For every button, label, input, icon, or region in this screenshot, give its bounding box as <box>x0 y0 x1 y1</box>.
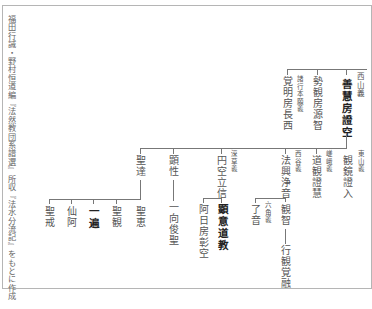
node-kanchi: 観智 <box>279 204 290 226</box>
node-enku-risshin: 円空立信 <box>215 155 226 199</box>
connector-drop <box>317 69 318 75</box>
connector-kanchi-down <box>285 229 286 244</box>
node-hoko-joon: 法興浄音 <box>279 155 290 199</box>
annotation-rokkaku: 六角義 <box>263 201 270 224</box>
connector-drop <box>173 148 174 154</box>
node-anichibo-shoku: 阿日房彰空 <box>197 204 208 259</box>
connector-drop <box>287 69 288 75</box>
node-gyokan-kakuyu: 行観覚融 <box>279 245 290 289</box>
connector-drop <box>203 198 204 203</box>
connector-hoko-children <box>255 198 286 199</box>
diagram-frame <box>2 5 372 289</box>
node-dokan-shoe: 道観證慧 <box>310 155 321 199</box>
node-kakumyobo-chosai: 覚明房長西 <box>281 76 292 131</box>
connector-shotatsu-children <box>49 199 141 200</box>
annotation-saga: 嵯峨義 <box>324 150 331 173</box>
node-ikko-shunsho: 一向俊聖 <box>167 202 178 246</box>
node-sena: 仙阿 <box>65 206 76 228</box>
connector-enku-children <box>203 198 222 199</box>
node-zenebo-shoku: 善慧房證空 <box>340 79 351 139</box>
connector-drop <box>221 148 222 154</box>
connector-enku-down <box>221 199 222 203</box>
node-ryoon: 了音 <box>249 204 260 226</box>
node-shokan: 聖観 <box>110 206 121 228</box>
annotation-nishitani: 西谷義 <box>293 150 300 173</box>
connector-kensho-down <box>173 180 174 201</box>
node-ken-i-dokyo: 顕意道教 <box>216 204 227 252</box>
connector-drop <box>116 199 117 204</box>
connector-drop <box>71 199 72 204</box>
connector-drop <box>285 148 286 154</box>
connector-level1 <box>287 69 367 70</box>
node-shoe: 聖恵 <box>134 206 145 228</box>
connector-drop <box>316 148 317 154</box>
annotation-fukakusa: 深草義 <box>229 150 236 173</box>
node-ippen: 一遍 <box>87 206 98 230</box>
node-shokai: 聖戒 <box>43 206 54 228</box>
connector-drop <box>140 148 141 154</box>
connector-drop <box>49 199 50 204</box>
annotation-higashiyama: 東山義 <box>356 150 363 173</box>
node-shotatsu: 聖達 <box>134 155 145 177</box>
node-kankyo-shonyu: 観鏡證入 <box>341 155 352 199</box>
connector-drop <box>93 199 94 204</box>
annotation-seizan: 西山義 <box>355 72 363 98</box>
node-seikanbo-genchi: 勢観房源智 <box>311 76 322 131</box>
source-caption: 福田行誡・野村恒道編『法然教団系譜選』所収『法水分流記』をもとに作成 <box>6 15 16 301</box>
connector-drop <box>255 198 256 203</box>
node-kensho: 顕性 <box>167 155 178 177</box>
connector-shotatsu-down <box>140 180 141 200</box>
connector-drop <box>346 69 347 75</box>
connector-shoku-down <box>346 134 347 149</box>
annotation-shogyo-hongan: 諸行本願義 <box>295 75 302 113</box>
